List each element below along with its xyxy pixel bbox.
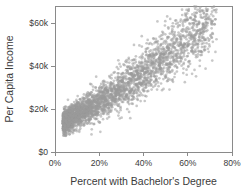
data-point <box>212 33 215 36</box>
data-point <box>132 90 135 93</box>
data-point <box>169 63 172 66</box>
data-point <box>122 101 125 104</box>
data-point <box>138 44 141 47</box>
data-point <box>97 90 100 93</box>
data-point <box>99 121 102 124</box>
data-point <box>108 85 111 88</box>
data-point <box>135 105 138 108</box>
data-point <box>123 75 126 78</box>
data-point <box>148 81 151 84</box>
data-point <box>153 75 156 78</box>
data-point <box>82 98 85 101</box>
x-tick-label: 60% <box>179 158 197 168</box>
data-point <box>153 55 156 58</box>
data-point <box>147 84 150 87</box>
data-point <box>158 77 161 80</box>
data-point <box>191 73 194 76</box>
data-point <box>166 80 169 83</box>
data-point <box>110 74 113 77</box>
data-point <box>69 114 72 117</box>
data-point <box>186 55 189 58</box>
data-point <box>206 29 209 32</box>
data-point <box>146 74 149 77</box>
data-point <box>78 105 81 108</box>
data-point <box>159 44 162 47</box>
data-point <box>77 102 80 105</box>
data-point <box>195 75 198 78</box>
data-point <box>136 73 139 76</box>
data-point <box>162 68 165 71</box>
data-point <box>126 70 129 73</box>
data-point <box>63 129 66 132</box>
data-point <box>82 124 85 127</box>
data-point <box>120 72 123 75</box>
data-point <box>211 40 214 43</box>
data-point <box>162 42 165 45</box>
y-tick-label: $20k <box>29 104 48 114</box>
data-point <box>80 108 83 111</box>
data-point <box>124 72 127 75</box>
data-point <box>158 35 161 38</box>
data-point <box>194 33 197 36</box>
data-point <box>104 99 107 102</box>
data-point <box>63 114 66 117</box>
data-point <box>140 35 143 38</box>
data-point <box>113 79 116 82</box>
data-point <box>83 110 86 113</box>
data-point <box>167 47 170 50</box>
data-point <box>121 81 124 84</box>
data-point <box>201 26 204 29</box>
data-point <box>107 99 110 102</box>
data-point <box>117 87 120 90</box>
data-point <box>154 62 157 65</box>
data-point <box>117 68 120 71</box>
data-point <box>150 79 153 82</box>
data-point <box>190 51 193 54</box>
data-point <box>108 95 111 98</box>
data-point <box>152 49 155 52</box>
data-point <box>126 108 129 111</box>
data-point <box>187 8 190 11</box>
data-point <box>127 81 130 84</box>
data-point <box>154 65 157 68</box>
data-point <box>198 36 201 39</box>
data-point <box>209 18 212 21</box>
x-axis-title: Percent with Bachelor's Degree <box>70 175 217 187</box>
data-point <box>149 75 152 78</box>
scatter-plot-figure: $0$20k$40k$60k 0%20%40%60%80% Percent wi… <box>0 0 247 192</box>
data-point <box>207 50 210 53</box>
data-point <box>164 20 167 23</box>
data-point <box>90 128 93 131</box>
data-point <box>160 48 163 51</box>
data-point <box>72 122 75 125</box>
data-point <box>198 65 201 68</box>
data-point <box>78 129 81 132</box>
data-point <box>141 85 144 88</box>
data-point <box>110 110 113 113</box>
data-point <box>210 23 213 26</box>
data-point <box>177 49 180 52</box>
data-point <box>196 23 199 26</box>
data-point <box>192 27 195 30</box>
data-point <box>151 62 154 65</box>
data-point <box>164 24 167 27</box>
data-point <box>164 39 167 42</box>
data-point <box>143 57 146 60</box>
data-point <box>212 15 215 18</box>
data-point <box>203 36 206 39</box>
data-point <box>144 82 147 85</box>
data-point <box>160 38 163 41</box>
data-point <box>200 43 203 46</box>
data-point <box>210 27 213 30</box>
data-point <box>164 58 167 61</box>
data-point <box>139 100 142 103</box>
data-point <box>178 62 181 65</box>
data-point <box>203 45 206 48</box>
data-point <box>126 101 129 104</box>
data-point <box>171 40 174 43</box>
data-point <box>147 90 150 93</box>
data-point <box>185 19 188 22</box>
data-point <box>141 56 144 59</box>
data-point <box>95 114 98 117</box>
data-point <box>197 50 200 53</box>
